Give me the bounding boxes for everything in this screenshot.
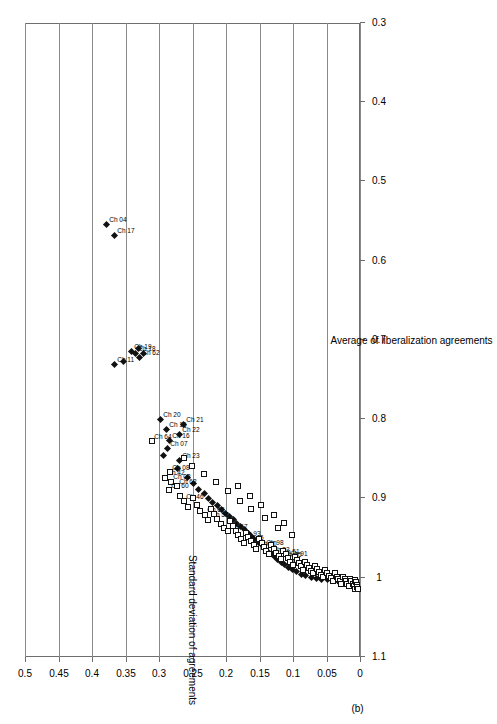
data-point xyxy=(355,586,361,592)
x-tick-label: 0.9 xyxy=(366,494,392,504)
y-tick xyxy=(293,657,294,662)
y-tick xyxy=(327,657,328,662)
gridline xyxy=(260,23,261,657)
y-tick xyxy=(126,657,127,662)
data-point-label: Ch 21 xyxy=(187,417,204,424)
data-point-label: Ch 04 xyxy=(109,217,126,224)
gridline xyxy=(59,23,60,657)
data-point xyxy=(262,515,268,521)
x-tick-label: 0.6 xyxy=(366,256,392,266)
x-tick xyxy=(360,22,365,23)
gridline xyxy=(92,23,93,657)
gridline xyxy=(25,23,26,657)
x-tick xyxy=(360,498,365,499)
data-point-label: Ch 08 xyxy=(173,464,190,471)
y-tick-label: 0.3 xyxy=(146,669,172,679)
x-tick xyxy=(360,181,365,182)
gridline xyxy=(126,23,127,657)
gridline xyxy=(226,23,227,657)
data-point-label: Ch 17 xyxy=(118,228,135,235)
y-tick-label: 0.2 xyxy=(213,669,239,679)
data-point-label: Ch 64 xyxy=(155,433,172,440)
data-point xyxy=(225,488,231,494)
data-point xyxy=(248,506,254,512)
y-tick-label: 0.05 xyxy=(314,669,340,679)
data-point-label: Ch 62 xyxy=(179,479,196,486)
y-tick xyxy=(360,657,361,662)
x-tick xyxy=(360,656,365,657)
data-point-label: Ch 20 xyxy=(163,412,180,419)
data-point-label: Ch 07 xyxy=(170,441,187,448)
x-axis-title: Average of liberalization agreements xyxy=(322,335,497,346)
data-point xyxy=(235,483,241,489)
data-point xyxy=(281,520,287,526)
data-point xyxy=(189,463,195,469)
y-tick xyxy=(260,657,261,662)
y-tick-label: 0.5 xyxy=(12,669,38,679)
data-point xyxy=(258,502,264,508)
x-tick xyxy=(360,577,365,578)
data-point xyxy=(237,498,243,504)
y-tick xyxy=(92,657,93,662)
data-point xyxy=(266,551,272,557)
x-tick-label: 0.4 xyxy=(366,97,392,107)
y-tick xyxy=(25,657,26,662)
data-point xyxy=(271,512,277,518)
data-point-label: Ch 22 xyxy=(183,426,200,433)
x-tick-label: 1.1 xyxy=(366,652,392,662)
y-tick-label: 0.35 xyxy=(113,669,139,679)
panel-label: (b) xyxy=(351,703,363,714)
x-tick xyxy=(360,260,365,261)
y-tick-label: 0 xyxy=(347,669,373,679)
y-tick-label: 0.4 xyxy=(79,669,105,679)
y-tick xyxy=(159,657,160,662)
data-point xyxy=(201,471,207,477)
data-point xyxy=(190,495,196,501)
y-tick xyxy=(59,657,60,662)
x-tick xyxy=(360,101,365,102)
y-tick-label: 0.15 xyxy=(247,669,273,679)
data-point xyxy=(185,504,191,510)
y-tick-label: 0.45 xyxy=(46,669,72,679)
x-tick-label: 0.3 xyxy=(366,18,392,28)
y-tick-label: 0.1 xyxy=(280,669,306,679)
x-tick xyxy=(360,418,365,419)
data-point xyxy=(213,479,219,485)
x-tick-label: 1 xyxy=(366,573,392,583)
gridline xyxy=(159,23,160,657)
y-tick xyxy=(226,657,227,662)
y-axis-title: Standard deviation of agreements xyxy=(187,545,198,715)
data-point xyxy=(247,493,253,499)
data-point xyxy=(289,532,295,538)
data-point xyxy=(205,517,211,523)
data-point xyxy=(181,455,187,461)
x-tick-label: 0.8 xyxy=(366,414,392,424)
x-tick-label: 0.5 xyxy=(366,177,392,187)
